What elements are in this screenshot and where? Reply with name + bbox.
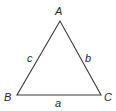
triangle-svg: A B C c b a xyxy=(0,0,116,111)
side-label-a: a xyxy=(55,97,61,109)
vertex-label-a: A xyxy=(54,5,62,17)
side-label-c: c xyxy=(27,52,33,64)
vertex-label-c: C xyxy=(104,91,112,103)
side-label-b: b xyxy=(85,52,91,64)
vertex-label-b: B xyxy=(4,91,11,103)
triangle-diagram: A B C c b a xyxy=(0,0,116,111)
